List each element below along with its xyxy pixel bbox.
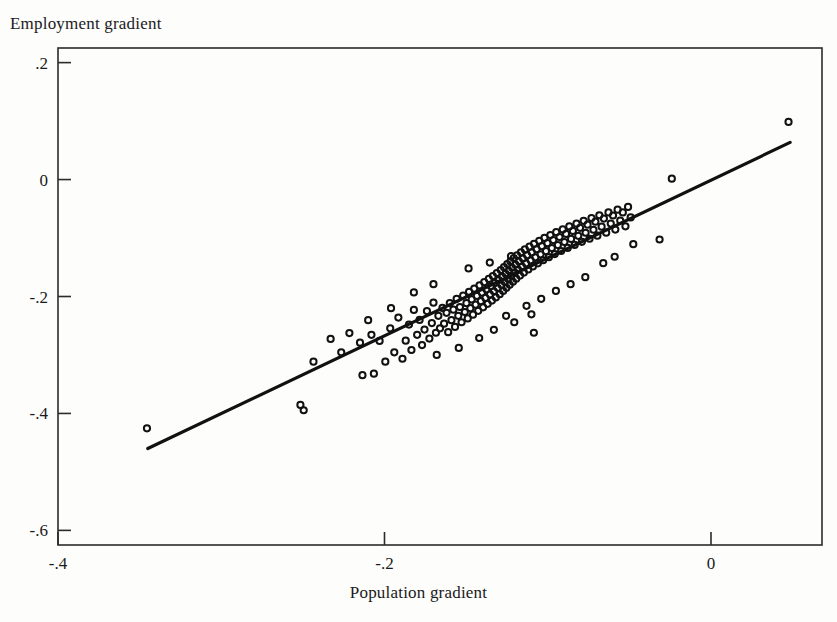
- scatter-plot-figure: Employment gradient Population gradient …: [0, 0, 837, 622]
- plot-canvas: .20-.2-.4-.6-.4-.20: [0, 0, 837, 622]
- axes: [58, 48, 822, 545]
- data-points: [144, 119, 792, 432]
- svg-text:-.6: -.6: [30, 521, 48, 540]
- svg-text:-.2: -.2: [30, 288, 48, 307]
- tick-labels: .20-.2-.4-.6-.4-.20: [30, 54, 716, 573]
- tick-marks: [58, 63, 711, 545]
- svg-text:0: 0: [40, 171, 49, 190]
- svg-text:0: 0: [707, 554, 716, 573]
- svg-text:-.4: -.4: [30, 404, 49, 423]
- svg-text:-.4: -.4: [49, 554, 68, 573]
- svg-text:.2: .2: [35, 54, 48, 73]
- svg-text:-.2: -.2: [375, 554, 393, 573]
